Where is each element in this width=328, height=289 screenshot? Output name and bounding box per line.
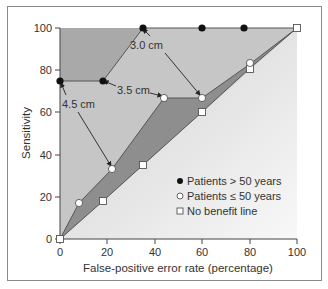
y-tick-80: 80 bbox=[40, 64, 52, 76]
y-tick-60: 60 bbox=[40, 106, 52, 118]
x-tick-100: 100 bbox=[288, 246, 306, 258]
y-tick-40: 40 bbox=[40, 149, 52, 161]
y-tick-100: 100 bbox=[34, 22, 52, 34]
legend-item-over-50: Patients > 50 years bbox=[187, 175, 282, 187]
x-tick-labels: 0 20 40 60 80 100 bbox=[57, 246, 306, 258]
x-tick-20: 20 bbox=[101, 246, 113, 258]
legend-item-under-50: Patients ≤ 50 years bbox=[187, 190, 282, 202]
legend-filled-circle-icon bbox=[177, 178, 183, 184]
x-tick-0: 0 bbox=[57, 246, 63, 258]
y-axis-title: Sensitivity bbox=[20, 107, 32, 159]
y-tick-20: 20 bbox=[40, 191, 52, 203]
annotation-4-5-cm: 4.5 cm bbox=[62, 98, 95, 110]
x-tick-60: 60 bbox=[196, 246, 208, 258]
legend-open-circle-icon bbox=[177, 193, 183, 199]
legend-item-no-benefit: No benefit line bbox=[187, 205, 257, 217]
y-ticks bbox=[55, 28, 60, 239]
x-tick-80: 80 bbox=[244, 246, 256, 258]
y-tick-labels: 0 20 40 60 80 100 bbox=[34, 22, 52, 245]
roc-chart: 0 20 40 60 80 100 0 20 40 60 80 100 Fals… bbox=[0, 0, 328, 289]
annotation-3-0-cm: 3.0 cm bbox=[130, 39, 163, 51]
x-axis-title: False-positive error rate (percentage) bbox=[83, 262, 273, 274]
annotation-3-5-cm: 3.5 cm bbox=[117, 84, 150, 96]
y-tick-0: 0 bbox=[46, 233, 52, 245]
legend-open-square-icon bbox=[177, 208, 183, 214]
x-tick-40: 40 bbox=[149, 246, 161, 258]
x-ticks bbox=[60, 239, 297, 244]
